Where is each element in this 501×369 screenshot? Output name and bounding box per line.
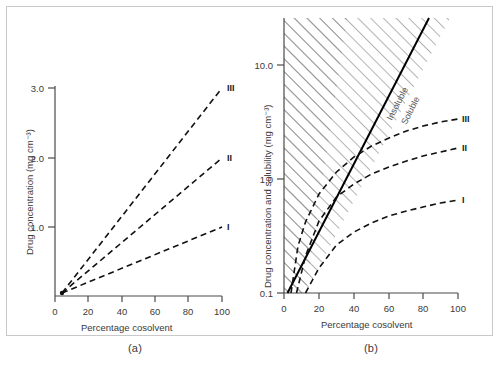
- panel-b-curve-label-II: II: [462, 143, 467, 153]
- panel-a-xtick-label-80: 80: [183, 306, 194, 317]
- panel-b-xtick-label-80: 80: [418, 303, 429, 314]
- panel-a-x-axis-title: Percentage cosolvent: [81, 322, 172, 333]
- panel-a-xtick-label-20: 20: [83, 306, 94, 317]
- panel-b: 10.0 1.0 0.1 0 20 40 60 80 100 I II: [250, 0, 501, 369]
- panel-a-curve-I: [62, 227, 222, 293]
- panel-b-x-axis-title: Percentage cosolvent: [321, 319, 412, 330]
- panel-a-curve-label-II: II: [227, 153, 232, 163]
- panel-b-plot: 10.0 1.0 0.1 0 20 40 60 80 100 I II: [250, 0, 501, 369]
- panel-a-xtick-label-40: 40: [117, 306, 128, 317]
- panel-b-curve-label-I: I: [462, 195, 465, 205]
- panel-b-ytick-label-10: 10.0: [255, 60, 274, 71]
- panel-a-ytick-label-3: 3.0: [31, 83, 44, 94]
- panel-b-xtick-label-100: 100: [450, 303, 466, 314]
- panel-a-xtick-label-0: 0: [52, 306, 57, 317]
- panel-a-caption: (a): [128, 342, 142, 354]
- panel-b-xtick-label-20: 20: [314, 303, 325, 314]
- panel-b-y-axis-title: Drug concentration and solubility (mg cm…: [262, 105, 273, 288]
- panel-a-curve-II: [62, 158, 222, 293]
- panel-b-insoluble-region-upper: [284, 18, 484, 293]
- panel-a-xtick-label-60: 60: [150, 306, 161, 317]
- panel-b-curve-label-III: III: [462, 114, 470, 124]
- panel-a: 3.0 2.0 1.0 0 20 40 60 80 100 I II: [0, 0, 250, 369]
- panel-a-xtick-label-100: 100: [214, 306, 230, 317]
- panel-b-ytick-label-01: 0.1: [260, 288, 273, 299]
- panel-a-curve-label-III: III: [227, 83, 235, 93]
- panel-b-xtick-label-40: 40: [349, 303, 360, 314]
- panel-b-xtick-label-60: 60: [384, 303, 395, 314]
- panel-a-curve-label-I: I: [227, 222, 230, 232]
- panel-a-plot: 3.0 2.0 1.0 0 20 40 60 80 100 I II: [0, 0, 250, 369]
- panel-a-y-axis-title: Drug concentration (mg cm⁻³): [24, 129, 35, 255]
- figure-container: 3.0 2.0 1.0 0 20 40 60 80 100 I II: [0, 0, 501, 369]
- panel-b-caption: (b): [364, 342, 378, 354]
- panel-a-curve-III: [62, 88, 222, 293]
- panel-b-xtick-label-0: 0: [281, 303, 286, 314]
